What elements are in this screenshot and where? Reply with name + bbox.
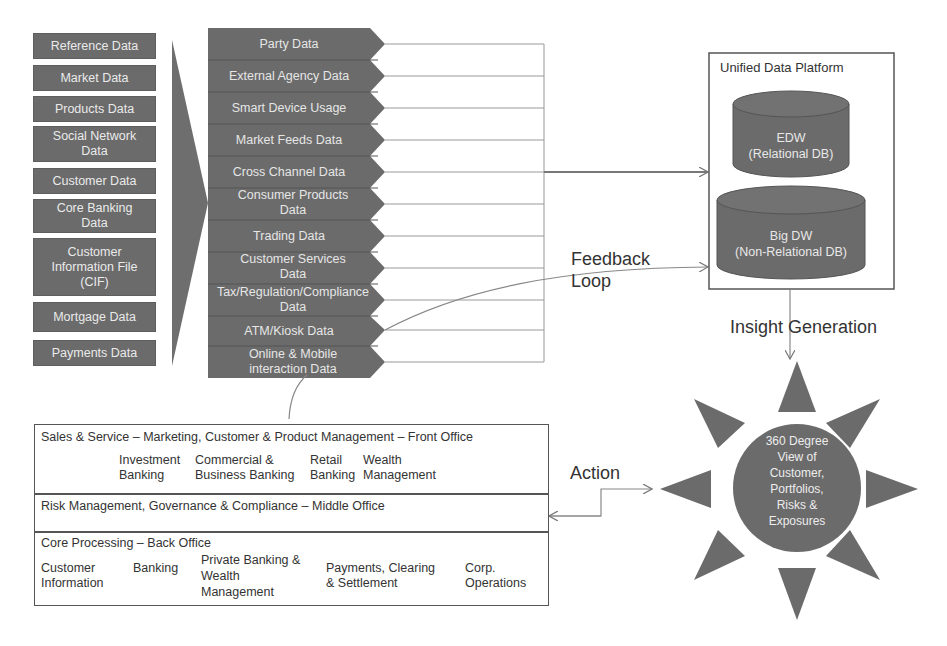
- source-label: Social Network Data: [33, 129, 156, 159]
- channel-label: Trading Data: [253, 229, 325, 244]
- back-office-box: Core Processing – Back Office Customer I…: [34, 532, 549, 606]
- channel-label: Party Data: [259, 37, 318, 52]
- front-office-title: Sales & Service – Marketing, Customer & …: [41, 430, 473, 445]
- platform-title: Unified Data Platform: [720, 60, 844, 75]
- front-unit-wealth-management: Wealth Management: [363, 453, 436, 483]
- channel-customer-services-data: Customer Services Data: [208, 250, 378, 284]
- source-mortgage-data: Mortgage Data: [33, 302, 156, 332]
- source-customer-data: Customer Data: [33, 168, 156, 194]
- channel-party-data: Party Data: [208, 28, 378, 60]
- source-cif: Customer Information File (CIF): [33, 238, 156, 296]
- source-label: Core Banking Data: [33, 201, 156, 231]
- source-core-banking-data: Core Banking Data: [33, 199, 156, 233]
- back-unit-corp-operations: Corp. Operations: [465, 561, 526, 591]
- source-label: Payments Data: [52, 346, 137, 361]
- channel-label: Cross Channel Data: [233, 165, 346, 180]
- action-arrow: [549, 489, 652, 516]
- channel-label: ATM/Kiosk Data: [244, 324, 333, 339]
- source-label: Customer Data: [52, 174, 136, 189]
- hub-label: 360 Degree View of Customer, Portfolios,…: [748, 433, 846, 529]
- middle-office-box: Risk Management, Governance & Compliance…: [34, 494, 549, 532]
- source-label: Reference Data: [51, 39, 139, 54]
- front-unit-retail-banking: Retail Banking: [310, 453, 355, 483]
- merge-chevron: [172, 40, 208, 366]
- channel-label: Market Feeds Data: [236, 133, 342, 148]
- source-reference-data: Reference Data: [33, 33, 156, 59]
- action-label: Action: [570, 462, 620, 484]
- channel-label: Online & Mobile interaction Data: [230, 347, 356, 377]
- channel-label: Consumer Products Data: [224, 188, 362, 218]
- source-products-data: Products Data: [33, 96, 156, 122]
- channel-online-mobile-data: Online & Mobile interaction Data: [208, 346, 378, 378]
- channel-trading-data: Trading Data: [208, 220, 378, 252]
- channel-label: Tax/Regulation/Compliance Data: [214, 285, 372, 315]
- source-label: Products Data: [55, 102, 134, 117]
- feedback-loop-arrow: [385, 267, 708, 330]
- source-payments-data: Payments Data: [33, 340, 156, 366]
- source-social-network-data: Social Network Data: [33, 126, 156, 162]
- insight-generation-label: Insight Generation: [730, 316, 877, 338]
- front-office-box: Sales & Service – Marketing, Customer & …: [34, 424, 549, 494]
- front-unit-investment-banking: Investment Banking: [119, 453, 180, 483]
- back-unit-banking: Banking: [133, 561, 178, 576]
- channel-label: Smart Device Usage: [232, 101, 347, 116]
- source-label: Mortgage Data: [53, 310, 136, 325]
- channel-atm-kiosk-data: ATM/Kiosk Data: [208, 316, 378, 346]
- feedback-loop-label: Feedback Loop: [571, 248, 650, 292]
- channel-market-feeds-data: Market Feeds Data: [208, 124, 378, 156]
- front-unit-commercial-banking: Commercial & Business Banking: [195, 453, 294, 483]
- channel-label: Customer Services Data: [226, 252, 360, 282]
- channel-consumer-products-data: Consumer Products Data: [208, 186, 378, 220]
- office-feedback-curve: [289, 375, 307, 419]
- channel-smart-device-usage: Smart Device Usage: [208, 92, 378, 124]
- back-unit-payments-clearing: Payments, Clearing & Settlement: [326, 561, 435, 591]
- source-market-data: Market Data: [33, 65, 156, 91]
- back-office-title: Core Processing – Back Office: [41, 536, 211, 551]
- channel-tax-regulation-compliance-data: Tax/Regulation/Compliance Data: [208, 284, 378, 316]
- back-unit-private-banking: Private Banking & Wealth Management: [201, 552, 300, 600]
- channel-cross-channel-data: Cross Channel Data: [208, 156, 378, 188]
- edw-label: EDW (Relational DB): [733, 130, 849, 162]
- big-dw-label: Big DW (Non-Relational DB): [717, 228, 865, 260]
- middle-office-title: Risk Management, Governance & Compliance…: [41, 499, 385, 514]
- source-label: Customer Information File (CIF): [33, 245, 156, 290]
- back-unit-customer-information: Customer Information: [41, 561, 104, 591]
- source-label: Market Data: [60, 71, 128, 86]
- channel-external-agency-data: External Agency Data: [208, 60, 378, 92]
- channel-label: External Agency Data: [229, 69, 349, 84]
